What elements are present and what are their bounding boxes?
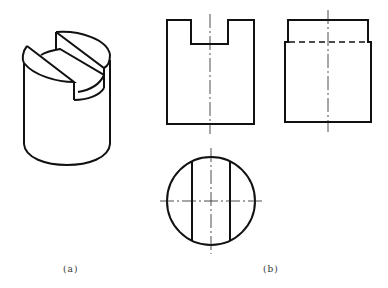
caption-a: (a) [63, 264, 78, 274]
side-view [285, 10, 371, 132]
slot-floor [41, 49, 104, 92]
cylinder-bottom-arc [24, 144, 110, 165]
top-view [160, 148, 262, 254]
front-view [167, 14, 254, 134]
technical-drawing [0, 0, 388, 288]
front-outline [167, 20, 254, 124]
isometric-view [23, 32, 110, 165]
caption-b: (b) [263, 264, 279, 274]
